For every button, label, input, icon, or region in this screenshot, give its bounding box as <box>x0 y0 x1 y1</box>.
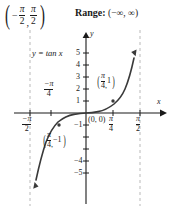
numerator: π <box>101 72 105 80</box>
point-y-value: 1 <box>107 77 111 85</box>
x-tick-label-minus-pi-over-2: −π 2 <box>22 115 31 133</box>
y-tick-label-minus-1: −1 <box>74 121 83 129</box>
x-tick-label-pi-over-2: π 2 <box>136 115 140 133</box>
x-tick-label-pi-over-4: π 4 <box>109 115 113 133</box>
point-minus-pi-over-4 <box>57 123 60 126</box>
domain-interval: ( − π 2 , π 2 ) <box>3 2 47 29</box>
y-tick-label-3: 3 <box>76 73 80 81</box>
numerator: π <box>109 115 113 123</box>
numerator: −π <box>44 80 53 88</box>
open-paren: ( <box>5 2 10 29</box>
curve-arrowhead-top <box>131 50 136 57</box>
denominator: 4 <box>47 90 51 98</box>
pi-over-2-fraction: π 2 <box>136 115 140 133</box>
figure-header: ( − π 2 , π 2 ) Range: (−∞, ∞) <box>0 0 172 30</box>
close-paren: ) <box>112 74 115 89</box>
point-y-value: −1 <box>53 136 62 144</box>
tangent-function-figure: ( − π 2 , π 2 ) Range: (−∞, ∞) <box>0 0 172 209</box>
numerator: π <box>136 115 140 123</box>
negative-sign: − <box>12 10 18 21</box>
y-tick-label-2: 2 <box>76 85 80 93</box>
y-axis-label: y <box>90 30 94 38</box>
left-endpoint-fraction: π 2 <box>19 5 26 27</box>
right-endpoint-fraction: π 2 <box>30 5 37 27</box>
tangent-graph: y x y = tan x 5 4 3 2 1 −1 −4 −5 −π 2 −π… <box>0 28 172 209</box>
pi-symbol: π <box>47 130 51 139</box>
point-label-minus-pi-over-4: ( π 4 , −1 ) <box>42 131 67 149</box>
y-tick-label-5: 5 <box>76 49 80 57</box>
point-pi-over-4 <box>111 99 114 102</box>
left-endpoint-numerator: π <box>19 5 26 15</box>
y-tick-label-minus-5: −5 <box>74 169 83 177</box>
origin-label: (0, 0) <box>88 116 105 124</box>
point-label-pi-over-4: ( π 4 , 1 ) <box>96 72 116 90</box>
pi-over-4-fraction: π 4 <box>109 115 113 133</box>
right-endpoint-numerator: π <box>30 5 37 15</box>
range-value: (−∞, ∞) <box>108 8 138 18</box>
denominator: 2 <box>136 125 140 133</box>
right-endpoint-denominator: 2 <box>30 17 37 27</box>
pi-symbol: π <box>49 79 53 88</box>
x-axis-arrowhead <box>160 110 167 117</box>
left-endpoint-denominator: 2 <box>19 17 26 27</box>
numerator: π <box>47 131 51 139</box>
x-axis-label: x <box>157 98 161 106</box>
y-tick-label-1: 1 <box>76 97 80 105</box>
y-tick-label-4: 4 <box>76 61 80 69</box>
x-tick-label-minus-pi-over-4: −π 4 <box>44 80 53 98</box>
y-tick-label-minus-4: −4 <box>74 157 83 165</box>
y-axis-arrowhead <box>83 32 90 38</box>
close-paren: ) <box>40 2 45 29</box>
minus-pi-over-4-fraction: −π 4 <box>44 80 53 98</box>
pi-symbol: π <box>27 114 31 123</box>
range-statement: Range: (−∞, ∞) <box>75 7 138 18</box>
numerator: −π <box>22 115 31 123</box>
open-paren: ( <box>43 133 46 148</box>
minus-pi-over-2-fraction: −π 2 <box>22 115 31 133</box>
open-paren: ( <box>97 74 100 89</box>
curve-arrowhead-bottom <box>33 182 38 189</box>
tangent-curve <box>36 58 134 180</box>
denominator: 4 <box>109 125 113 133</box>
range-label: Range: <box>75 7 106 18</box>
curve-equation-label: y = tan x <box>32 49 63 58</box>
denominator: 2 <box>25 125 29 133</box>
close-paren: ) <box>63 133 66 148</box>
